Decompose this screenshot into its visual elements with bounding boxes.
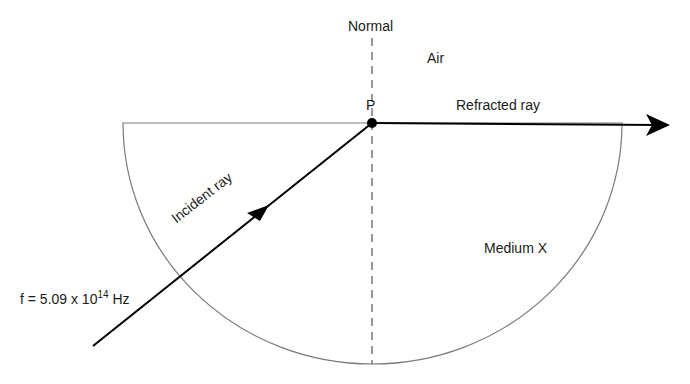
point-p-label: P xyxy=(366,97,375,113)
refraction-diagram xyxy=(0,0,690,384)
frequency-label: f = 5.09 x 1014 Hz xyxy=(20,289,130,307)
incident-ray xyxy=(93,123,372,346)
medium-x-label: Medium X xyxy=(484,240,547,256)
frequency-exponent: 14 xyxy=(97,289,108,300)
normal-label: Normal xyxy=(348,18,393,34)
point-p-dot xyxy=(367,118,377,128)
incident-arrow-icon xyxy=(247,205,269,221)
refracted-ray-label: Refracted ray xyxy=(456,97,540,113)
frequency-prefix: f = 5.09 x 10 xyxy=(20,291,97,307)
air-label: Air xyxy=(427,50,444,66)
medium-semicircle xyxy=(123,123,622,364)
frequency-unit: Hz xyxy=(109,291,130,307)
